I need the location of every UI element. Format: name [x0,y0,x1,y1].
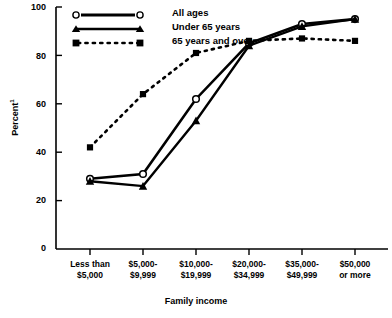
legend-sample-65-and-over [68,36,168,50]
legend-sample-under-65 [68,22,168,36]
data-point [87,144,93,150]
data-point [193,96,200,103]
series-line [90,38,355,147]
series-65-years-and-over [87,35,358,150]
data-point [299,35,305,41]
x-tick-label-5-line1: $50,000 [322,259,388,270]
legend-label-all-ages: All ages [172,7,208,18]
x-axis-title: Family income [0,296,392,306]
x-tick-label-5-line2: or more [322,270,388,281]
legend-label-65-and-over: 65 years and over [172,35,252,46]
data-point [352,38,358,44]
chart-figure: Percent1 100 80 60 40 20 0 All ag [0,0,392,318]
data-point [193,50,199,56]
data-point [140,91,146,97]
legend-sample-all-ages [68,8,168,22]
x-tick-label-5: $50,000 or more [322,259,388,280]
legend-label-under-65: Under 65 years [172,21,240,32]
data-point [140,171,147,178]
